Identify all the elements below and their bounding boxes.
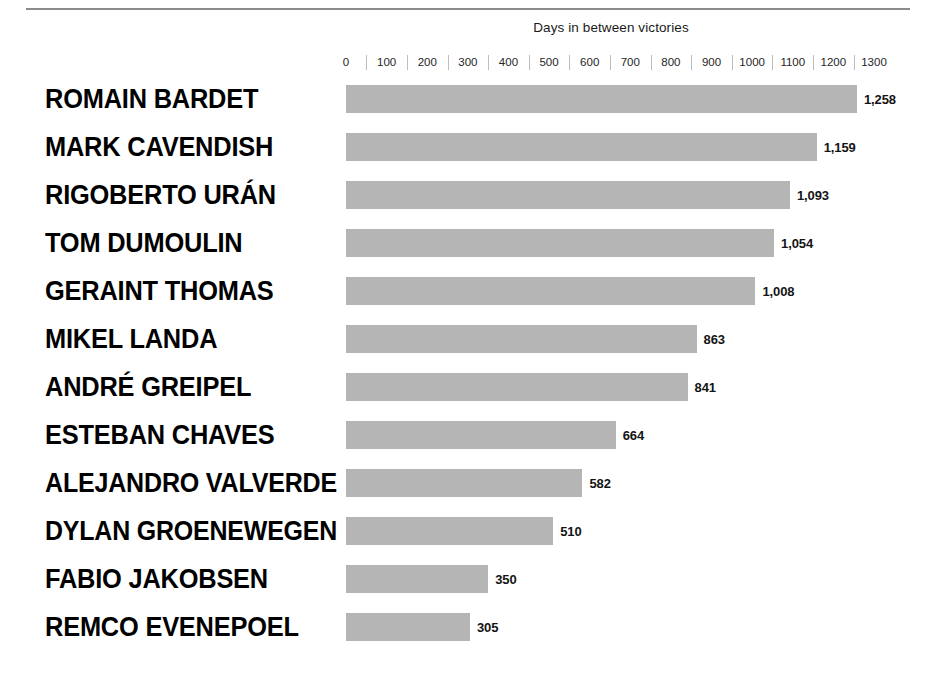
bar-value-label: 863 bbox=[704, 332, 725, 347]
chart-page: Days in between victories 01002003004005… bbox=[0, 0, 929, 693]
bar-value-label: 841 bbox=[695, 380, 716, 395]
category-label: GERAINT THOMAS bbox=[45, 277, 318, 306]
bar-container bbox=[346, 181, 790, 209]
bar[interactable] bbox=[346, 133, 817, 161]
category-label: ALEJANDRO VALVERDE bbox=[45, 469, 314, 498]
category-label: ROMAIN BARDET bbox=[45, 85, 318, 114]
bar-row: TOM DUMOULIN1,054 bbox=[0, 219, 929, 267]
bar-value-label: 510 bbox=[560, 524, 581, 539]
bar[interactable] bbox=[346, 421, 616, 449]
bar-container bbox=[346, 373, 688, 401]
bar-container bbox=[346, 85, 857, 113]
bar[interactable] bbox=[346, 613, 470, 641]
bar-container bbox=[346, 229, 774, 257]
bar-value-label: 1,159 bbox=[824, 140, 856, 155]
category-label: FABIO JAKOBSEN bbox=[45, 565, 318, 594]
bar-container bbox=[346, 517, 553, 545]
bar[interactable] bbox=[346, 181, 790, 209]
bar-value-label: 1,054 bbox=[781, 236, 813, 251]
category-label: ANDRÉ GREIPEL bbox=[45, 373, 318, 402]
category-label: MIKEL LANDA bbox=[45, 325, 318, 354]
background-artifact bbox=[48, 660, 748, 682]
bar[interactable] bbox=[346, 469, 582, 497]
bar[interactable] bbox=[346, 565, 488, 593]
category-label: DYLAN GROENEWEGEN bbox=[45, 517, 313, 546]
bar-row: DYLAN GROENEWEGEN510 bbox=[0, 507, 929, 555]
bar-plot-area: ROMAIN BARDET1,258MARK CAVENDISH1,159RIG… bbox=[0, 0, 929, 693]
bar-value-label: 350 bbox=[495, 572, 516, 587]
bar-row: MARK CAVENDISH1,159 bbox=[0, 123, 929, 171]
bar-value-label: 1,093 bbox=[797, 188, 829, 203]
category-label: ESTEBAN CHAVES bbox=[45, 421, 318, 450]
bar-row: RIGOBERTO URÁN1,093 bbox=[0, 171, 929, 219]
category-label: TOM DUMOULIN bbox=[45, 229, 318, 258]
bar-container bbox=[346, 469, 582, 497]
bar-container bbox=[346, 613, 470, 641]
bar-container bbox=[346, 565, 488, 593]
bar[interactable] bbox=[346, 325, 697, 353]
bar-row: ESTEBAN CHAVES664 bbox=[0, 411, 929, 459]
bar-container bbox=[346, 421, 616, 449]
bar-row: ROMAIN BARDET1,258 bbox=[0, 75, 929, 123]
bar-container bbox=[346, 277, 755, 305]
bar-row: FABIO JAKOBSEN350 bbox=[0, 555, 929, 603]
category-label: REMCO EVENEPOEL bbox=[45, 613, 318, 642]
bar-value-label: 305 bbox=[477, 620, 498, 635]
bar[interactable] bbox=[346, 373, 688, 401]
bar-value-label: 1,008 bbox=[762, 284, 794, 299]
bar-row: MIKEL LANDA863 bbox=[0, 315, 929, 363]
category-label: RIGOBERTO URÁN bbox=[45, 181, 318, 210]
bar-row: ANDRÉ GREIPEL841 bbox=[0, 363, 929, 411]
category-label: MARK CAVENDISH bbox=[45, 133, 318, 162]
bar-row: GERAINT THOMAS1,008 bbox=[0, 267, 929, 315]
bar[interactable] bbox=[346, 85, 857, 113]
bar[interactable] bbox=[346, 517, 553, 545]
bar-value-label: 582 bbox=[589, 476, 610, 491]
bar[interactable] bbox=[346, 229, 774, 257]
bar-value-label: 664 bbox=[623, 428, 644, 443]
bar-row: ALEJANDRO VALVERDE582 bbox=[0, 459, 929, 507]
bar-container bbox=[346, 325, 697, 353]
bar-container bbox=[346, 133, 817, 161]
bar-value-label: 1,258 bbox=[864, 92, 896, 107]
bar-row: REMCO EVENEPOEL305 bbox=[0, 603, 929, 651]
bar[interactable] bbox=[346, 277, 755, 305]
